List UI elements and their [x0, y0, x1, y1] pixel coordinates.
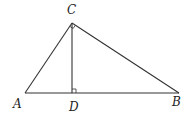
segment-ac: [25, 23, 72, 93]
label-point-c: C: [67, 3, 76, 17]
segment-bc: [72, 23, 179, 93]
right-angle-mark-d: [72, 89, 76, 93]
triangle-diagram: A B C D: [0, 0, 191, 118]
label-point-a: A: [12, 97, 22, 111]
label-point-d: D: [68, 100, 79, 114]
label-point-b: B: [171, 95, 181, 109]
